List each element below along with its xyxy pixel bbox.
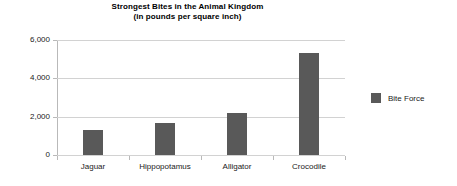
x-axis-tick [57,156,58,160]
y-axis-tick [53,117,57,118]
y-axis-tick [53,40,57,41]
y-axis-tick-label: 6,000 [4,36,50,44]
gridline [57,40,345,41]
x-axis-tick [345,156,346,160]
x-axis-tick [201,156,202,160]
x-axis-tick-label: Hippopotamus [129,162,201,171]
x-axis-tick-label: Crocodile [273,162,345,171]
bar [83,130,103,155]
legend-label-bite-force: Bite Force [388,94,424,103]
bar [155,123,175,155]
x-axis-tick-label: Jaguar [57,162,129,171]
bar [227,113,247,155]
x-axis-tick [129,156,130,160]
y-axis-tick-label: 0 [4,151,50,159]
chart-title: Strongest Bites in the Animal Kingdom [0,2,375,12]
y-axis-tick [53,78,57,79]
y-axis-tick-label: 2,000 [4,113,50,121]
chart-subtitle: (in pounds per square inch) [0,12,375,22]
plot-area [57,40,345,155]
bar [299,53,319,155]
chart-title-block: Strongest Bites in the Animal Kingdom (i… [0,2,375,22]
x-axis-tick [273,156,274,160]
legend-swatch-bite-force [371,93,381,103]
chart-legend: Bite Force [371,93,424,103]
y-axis-tick-label: 4,000 [4,74,50,82]
x-axis-tick-label: Alligator [201,162,273,171]
x-axis-labels: JaguarHippopotamusAlligatorCrocodile [57,162,345,174]
bar-chart: Strongest Bites in the Animal Kingdom (i… [0,0,457,186]
y-axis-labels: 02,0004,0006,000 [0,0,50,186]
